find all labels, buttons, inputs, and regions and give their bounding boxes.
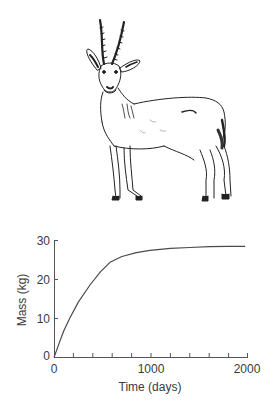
x-tick-label: 2000 — [234, 362, 261, 376]
y-tick-label: 10 — [37, 312, 51, 326]
y-tick-label: 0 — [43, 349, 50, 363]
y-tick-label: 30 — [37, 234, 51, 248]
y-axis-label: Mass (kg) — [15, 274, 29, 327]
antelope-illustration — [87, 20, 231, 201]
x-axis-label: Time (days) — [119, 380, 182, 394]
growth-chart: 30 20 10 0 0 1000 2000 Time (days) Mass … — [15, 234, 261, 395]
x-ticks — [73, 353, 247, 357]
x-tick-label: 0 — [51, 362, 58, 376]
figure: 30 20 10 0 0 1000 2000 Time (days) Mass … — [0, 0, 272, 404]
mass-growth-curve — [54, 246, 245, 357]
x-tick-label: 1000 — [138, 362, 165, 376]
y-tick-label: 20 — [37, 273, 51, 287]
